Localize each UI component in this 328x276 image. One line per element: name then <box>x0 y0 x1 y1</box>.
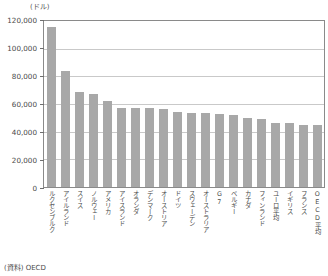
category-label: ユーロ平均 <box>272 190 279 252</box>
bar-slot <box>198 21 212 187</box>
category-slot: デンマーク <box>142 190 156 252</box>
category-slot: アイルランド <box>58 190 72 252</box>
bar-series <box>44 21 324 187</box>
bar <box>103 101 112 187</box>
bar <box>285 123 294 187</box>
category-slot: ベルギー <box>226 190 240 252</box>
bar-slot <box>212 21 226 187</box>
y-axis-tick <box>40 188 44 189</box>
chart-figure: (ドル) 020,00040,00060,00080,000100,000120… <box>0 0 328 276</box>
category-slot: ドイツ <box>170 190 184 252</box>
y-axis-tick-label: 20,000 <box>12 156 37 165</box>
category-slot: OECD平均 <box>310 190 324 252</box>
source-note: (資料) OECD <box>4 262 46 272</box>
category-slot: オランダ <box>128 190 142 252</box>
bar-slot <box>254 21 268 187</box>
bar-slot <box>170 21 184 187</box>
category-label: フィンランド <box>258 190 265 252</box>
category-label: オーストリア <box>160 190 167 252</box>
bar <box>89 94 98 187</box>
category-slot: フランス <box>296 190 310 252</box>
bar-slot <box>226 21 240 187</box>
y-axis-tick-label: 100,000 <box>7 44 37 53</box>
category-label: イギリス <box>286 190 293 252</box>
bar <box>61 71 70 187</box>
category-label: アイスランド <box>118 190 125 252</box>
category-label: ドイツ <box>174 190 181 252</box>
bar-slot <box>100 21 114 187</box>
category-slot: アメリカ <box>100 190 114 252</box>
bar <box>75 92 84 187</box>
bar <box>313 125 322 187</box>
bar <box>243 118 252 187</box>
category-axis-labels: ルクセンブルクアイルランドスイスノルウェーアメリカアイスランドオランダデンマーク… <box>44 190 324 252</box>
category-slot: ルクセンブルク <box>44 190 58 252</box>
y-axis-tick-label: 120,000 <box>7 16 37 25</box>
category-label: オーストラリア <box>202 190 209 252</box>
bar <box>215 114 224 187</box>
bar <box>117 108 126 187</box>
category-slot: フィンランド <box>254 190 268 252</box>
category-label: ルクセンブルク <box>48 190 55 252</box>
category-slot: オーストリア <box>156 190 170 252</box>
y-axis-unit-label: (ドル) <box>30 1 49 11</box>
bar <box>47 27 56 187</box>
bar-slot <box>128 21 142 187</box>
bar <box>159 109 168 187</box>
bar-slot <box>296 21 310 187</box>
bar <box>299 125 308 187</box>
y-axis-tick-label: 40,000 <box>12 128 37 137</box>
category-slot: スウェーデン <box>184 190 198 252</box>
category-slot: カナダ <box>240 190 254 252</box>
bar-slot <box>142 21 156 187</box>
category-slot: スイス <box>72 190 86 252</box>
bar-slot <box>58 21 72 187</box>
bar-slot <box>156 21 170 187</box>
category-label: スイス <box>76 190 83 252</box>
category-slot: G7 <box>212 190 226 252</box>
bar-slot <box>310 21 324 187</box>
bar <box>187 113 196 187</box>
y-axis-tick-label: 80,000 <box>12 72 37 81</box>
bar <box>131 108 140 187</box>
bar <box>257 119 266 187</box>
bar <box>271 123 280 187</box>
category-label: ノルウェー <box>90 190 97 252</box>
category-label: G7 <box>216 190 223 252</box>
bar-slot <box>282 21 296 187</box>
bar-slot <box>114 21 128 187</box>
bar-slot <box>240 21 254 187</box>
category-label: フランス <box>300 190 307 252</box>
bar-slot <box>44 21 58 187</box>
category-slot: アイスランド <box>114 190 128 252</box>
bar-slot <box>72 21 86 187</box>
y-axis-tick-label: 0 <box>32 184 37 193</box>
category-label: デンマーク <box>146 190 153 252</box>
category-label: アイルランド <box>62 190 69 252</box>
y-axis-tick-label: 60,000 <box>12 100 37 109</box>
category-label: スウェーデン <box>188 190 195 252</box>
category-label: オランダ <box>132 190 139 252</box>
bar-slot <box>86 21 100 187</box>
category-label: OECD平均 <box>314 190 321 252</box>
category-label: ベルギー <box>230 190 237 252</box>
category-slot: ノルウェー <box>86 190 100 252</box>
bar <box>229 115 238 187</box>
category-slot: ユーロ平均 <box>268 190 282 252</box>
category-slot: イギリス <box>282 190 296 252</box>
bar <box>145 108 154 187</box>
bar-slot <box>268 21 282 187</box>
category-label: カナダ <box>244 190 251 252</box>
bar <box>201 113 210 187</box>
bar-slot <box>184 21 198 187</box>
category-slot: オーストラリア <box>198 190 212 252</box>
category-label: アメリカ <box>104 190 111 252</box>
bar <box>173 112 182 187</box>
